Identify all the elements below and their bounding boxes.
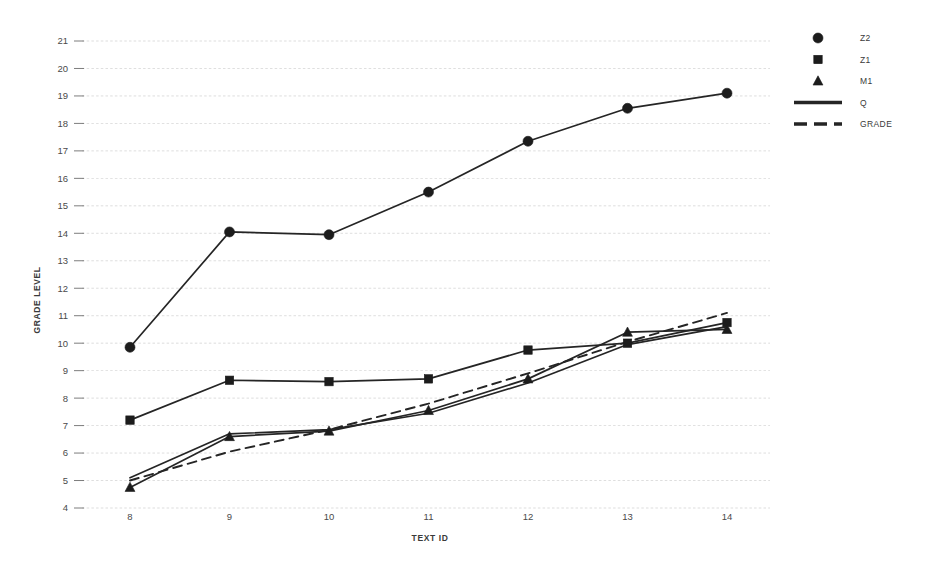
y-tick-label: 9 <box>63 365 68 376</box>
gridlines-group <box>82 41 770 508</box>
y-tick-labels-group: 456789101112131415161718192021 <box>57 35 68 513</box>
chart-container: 456789101112131415161718192021 891011121… <box>0 0 926 567</box>
data-point-circle <box>722 88 732 98</box>
x-tick-label: 9 <box>227 511 232 522</box>
data-point-circle <box>523 136 533 146</box>
y-tick-label: 18 <box>57 118 68 129</box>
series-lines-group <box>130 93 727 487</box>
y-axis-title: GRADE LEVEL <box>32 266 42 333</box>
legend-label-z2: Z2 <box>860 33 871 43</box>
y-tick-label: 16 <box>57 173 68 184</box>
data-point-square <box>126 416 134 424</box>
data-point-circle <box>125 342 135 352</box>
y-tick-label: 5 <box>63 475 68 486</box>
data-point-circle <box>623 103 633 113</box>
series-markers-group <box>125 88 732 491</box>
legend-label-z1: Z1 <box>860 55 871 65</box>
y-tick-label: 6 <box>63 447 68 458</box>
data-point-square <box>424 375 432 383</box>
data-point-square <box>623 339 631 347</box>
legend-symbol-triangle <box>813 76 823 85</box>
legend-symbol-circle <box>813 33 823 43</box>
series-line-z2 <box>130 93 727 347</box>
legend-symbol-square <box>814 55 822 63</box>
y-tick-label: 8 <box>63 393 68 404</box>
y-tick-label: 10 <box>57 338 68 349</box>
y-tick-label: 15 <box>57 200 68 211</box>
data-point-triangle <box>125 482 135 491</box>
data-point-square <box>325 377 333 385</box>
y-tick-label: 11 <box>58 310 68 321</box>
y-tick-label: 7 <box>63 420 68 431</box>
x-tick-label: 8 <box>127 511 132 522</box>
line-chart: 456789101112131415161718192021 891011121… <box>0 0 926 567</box>
y-tick-label: 4 <box>63 502 68 513</box>
data-point-square <box>524 346 532 354</box>
x-tick-label: 10 <box>324 511 335 522</box>
x-tick-label: 12 <box>523 511 534 522</box>
legend-label-grade: GRADE <box>860 119 892 129</box>
x-tick-label: 14 <box>722 511 733 522</box>
y-tick-label: 20 <box>57 63 68 74</box>
y-tickmarks-group <box>74 41 84 508</box>
y-tick-label: 21 <box>57 35 68 46</box>
y-tick-label: 12 <box>57 283 68 294</box>
legend-label-m1: M1 <box>860 76 873 86</box>
data-point-circle <box>324 230 334 240</box>
legend-label-q: Q <box>860 98 867 108</box>
y-tick-label: 17 <box>57 145 68 156</box>
series-line-grade <box>130 313 727 481</box>
data-point-circle <box>225 227 235 237</box>
x-tick-labels-group: 891011121314 <box>127 511 732 522</box>
x-axis-title: TEXT ID <box>412 533 449 543</box>
y-tick-label: 14 <box>57 228 68 239</box>
data-point-circle <box>424 187 434 197</box>
x-tick-label: 13 <box>622 511 633 522</box>
y-tick-label: 19 <box>57 90 68 101</box>
x-tick-label: 11 <box>424 511 434 522</box>
data-point-square <box>225 376 233 384</box>
chart-legend: Z2Z1M1QGRADE <box>794 33 892 129</box>
y-tick-label: 13 <box>57 255 68 266</box>
